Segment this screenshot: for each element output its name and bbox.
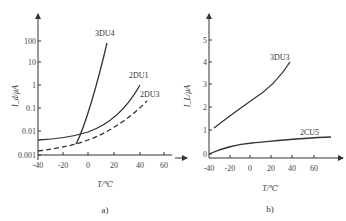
caption-a: a) [102,205,109,215]
series-2CU5 [209,137,331,154]
svg-text:-40: -40 [33,161,44,170]
svg-text:1: 1 [203,126,207,135]
svg-text:0.1: 0.1 [26,104,36,113]
svg-text:2: 2 [203,103,207,112]
series-2DU3 [38,101,147,151]
series-2DU1 [38,85,140,140]
y-tick-labels: 100 10 1 0.1 0.01 0.001 [18,37,36,160]
svg-text:-20: -20 [58,161,69,170]
svg-text:10: 10 [28,58,36,67]
svg-text:0.001: 0.001 [18,151,36,160]
series-3DU3 [214,62,290,128]
chart-a: 100 10 1 0.1 0.01 0.001 -40 -20 0 20 40 … [11,14,172,215]
svg-text:0.01: 0.01 [22,127,36,136]
series-3DU4 [76,43,107,144]
x-axis-label: T/℃ [262,184,279,193]
svg-text:4: 4 [203,58,207,67]
label-2DU1: 2DU1 [129,71,149,80]
svg-text:0: 0 [86,161,90,170]
svg-text:100: 100 [24,37,36,46]
y-axis-label: I_L/μA [183,85,192,108]
label-2DU3: 2DU3 [140,90,160,99]
x-tick-labels: -40 -20 0 20 40 60 [204,164,318,173]
svg-text:60: 60 [160,161,168,170]
svg-text:-40: -40 [204,164,215,173]
svg-text:20: 20 [267,164,275,173]
svg-text:-20: -20 [225,164,236,173]
svg-text:1: 1 [32,81,36,90]
x-axis-label: T/℃ [97,180,114,189]
svg-text:5: 5 [203,36,207,45]
y-axis-label: I_d/μA [11,85,20,108]
svg-text:40: 40 [136,161,144,170]
label-2CU5: 2CU5 [300,128,319,137]
y-tick-labels: 0 1 2 3 4 5 [203,36,207,159]
label-3DU4: 3DU4 [95,29,115,38]
caption-b: b) [266,204,274,214]
svg-text:40: 40 [288,164,296,173]
svg-text:20: 20 [110,161,118,170]
svg-text:60: 60 [310,164,318,173]
svg-text:0: 0 [248,164,252,173]
x-tick-labels: -40 -20 0 20 40 60 [33,161,168,170]
figure: 100 10 1 0.1 0.01 0.001 -40 -20 0 20 40 … [0,0,346,221]
label-3DU3: 3DU3 [270,53,290,62]
chart-b: 0 1 2 3 4 5 -40 -20 0 20 40 60 T/℃ I_L/μ… [175,14,343,214]
svg-text:0: 0 [203,150,207,159]
svg-text:3: 3 [203,80,207,89]
